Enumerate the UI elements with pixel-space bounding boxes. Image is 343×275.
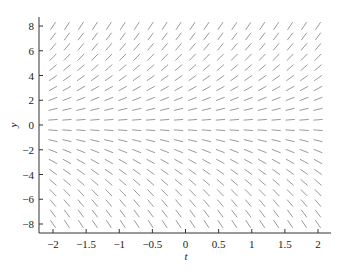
slope-segment [300, 108, 308, 110]
slope-segment [286, 150, 294, 153]
slope-segment [315, 200, 321, 206]
slope-segment [287, 54, 293, 60]
slope-segment [134, 44, 139, 50]
slope-segment [273, 200, 279, 206]
slope-segment [120, 180, 126, 186]
slope-segment [146, 130, 154, 131]
slope-segment [175, 180, 181, 186]
slope-segment [189, 180, 195, 186]
slope-segment [49, 97, 57, 100]
slope-segment [77, 108, 85, 110]
slope-segment [134, 220, 139, 227]
slope-segment [246, 22, 251, 29]
slope-segment [51, 22, 56, 29]
slope-segment [51, 220, 56, 227]
slope-segment [91, 97, 99, 100]
slope-segment [203, 86, 210, 90]
x-tick-label: −0.5 [142, 238, 162, 250]
slope-segment [106, 200, 112, 206]
slope-segment [77, 169, 84, 174]
slope-segment [260, 22, 265, 29]
slope-segment [50, 169, 57, 174]
slope-segment [92, 33, 97, 40]
y-tick-label: −4 [22, 169, 34, 181]
slope-segment [314, 86, 321, 90]
slope-segment [272, 130, 280, 131]
slope-segment [300, 150, 308, 153]
slope-segment [258, 130, 266, 131]
slope-segment [174, 140, 182, 142]
slope-segment [259, 169, 266, 174]
slope-segment [287, 190, 293, 196]
slope-segment [106, 210, 111, 217]
slope-segment [78, 200, 83, 206]
slope-segment [92, 44, 98, 50]
slope-segment [315, 169, 322, 174]
slope-segment [120, 22, 125, 29]
slope-segment [189, 150, 197, 153]
slope-segment [176, 22, 181, 29]
slope-segment [64, 54, 70, 60]
slope-segment [190, 210, 195, 217]
slope-segment [245, 54, 251, 60]
slope-segment [315, 190, 321, 196]
slope-segment [274, 210, 279, 217]
slope-segment [133, 180, 139, 186]
slope-segment [78, 65, 84, 71]
slope-segment [286, 108, 294, 110]
slope-segment [189, 159, 196, 163]
slope-segment [217, 86, 224, 90]
slope-segment [259, 54, 265, 60]
slope-segment [315, 44, 321, 50]
slope-segment [245, 190, 251, 196]
slope-segment [175, 169, 182, 174]
slope-field-chart: −2−1.5−1−0.500.511.52 86420−2−4−6−8 t y [0, 0, 343, 275]
slope-segment [160, 108, 168, 110]
slope-segment [50, 200, 56, 206]
slope-segment [245, 86, 252, 90]
slope-segment [230, 119, 238, 120]
slope-segment [286, 119, 294, 120]
slope-segment [244, 119, 252, 120]
slope-segment [77, 119, 85, 120]
slope-segment [246, 220, 251, 227]
slope-segment [50, 44, 56, 50]
slope-segment [260, 210, 265, 217]
slope-segment [188, 140, 196, 142]
slope-segment [300, 140, 308, 142]
slope-segment [287, 169, 294, 174]
slope-segment [314, 140, 322, 142]
slope-segment [259, 200, 265, 206]
slope-segment [259, 190, 265, 196]
slope-segment [147, 65, 153, 71]
slope-segment [161, 86, 168, 90]
slope-segment [49, 150, 57, 153]
slope-segment [188, 130, 196, 131]
slope-segment [77, 140, 85, 142]
slope-segment [105, 159, 112, 163]
slope-segment [78, 33, 83, 40]
slope-segment [231, 76, 238, 81]
slope-segment [314, 159, 321, 163]
slope-segment [314, 97, 322, 100]
slope-segment [134, 210, 139, 217]
slope-segment [203, 180, 209, 186]
slope-segment [162, 190, 168, 196]
slope-segment [78, 180, 84, 186]
slope-segment [92, 65, 98, 71]
slope-segment [232, 33, 237, 40]
slope-field-segments [49, 22, 322, 227]
slope-segment [147, 159, 154, 163]
slope-segment [273, 169, 280, 174]
slope-segment [286, 130, 294, 131]
slope-segment [202, 119, 210, 120]
slope-segment [161, 97, 169, 100]
slope-segment [91, 76, 98, 81]
slope-segment [78, 190, 84, 196]
slope-segment [314, 119, 322, 120]
slope-segment [161, 150, 169, 153]
slope-segment [189, 86, 196, 90]
slope-segment [274, 22, 279, 29]
slope-segment [134, 22, 139, 29]
slope-segment [161, 65, 167, 71]
